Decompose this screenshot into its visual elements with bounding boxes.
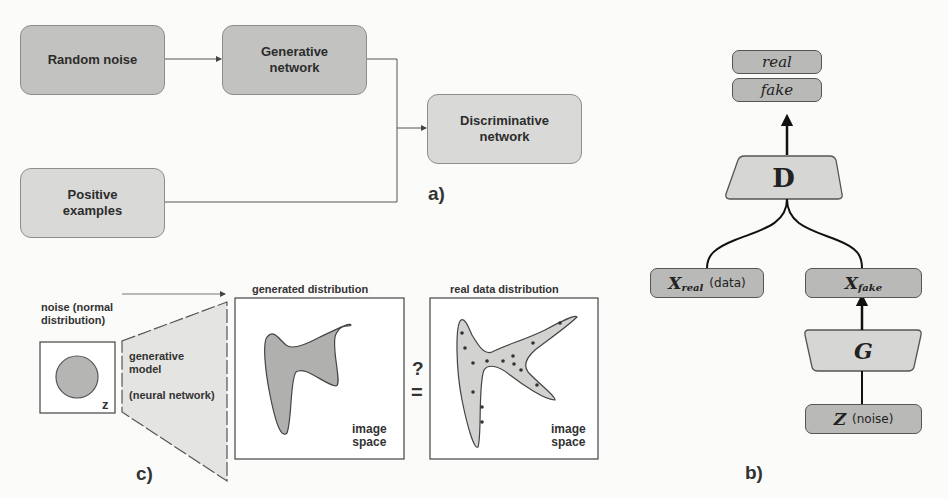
- panel-c-label: c): [136, 463, 153, 485]
- panel-c-shapes: [0, 0, 948, 498]
- noise-label-line-1: noise (normal: [41, 301, 113, 314]
- generative-model-label: generative model: [129, 350, 184, 376]
- model-label-line-1: generative: [129, 350, 184, 363]
- z-label: z: [102, 398, 109, 411]
- real-distribution-title: real data distribution: [450, 283, 559, 296]
- noise-label: noise (normal distribution): [41, 301, 113, 327]
- neural-network-label: (neural network): [129, 389, 215, 402]
- question-mark: ?: [412, 362, 424, 375]
- real-image-space-label: image space: [551, 423, 586, 449]
- normal-distribution-circle: [56, 356, 98, 398]
- noise-label-line-2: distribution): [41, 314, 113, 327]
- generated-image-space-label: image space: [352, 423, 387, 449]
- space-label-line-2: space: [352, 436, 387, 449]
- equals-sign: =: [411, 386, 423, 399]
- generated-distribution-title: generated distribution: [252, 283, 368, 296]
- model-label-line-2: model: [129, 363, 184, 376]
- space-label-line-2: space: [551, 436, 586, 449]
